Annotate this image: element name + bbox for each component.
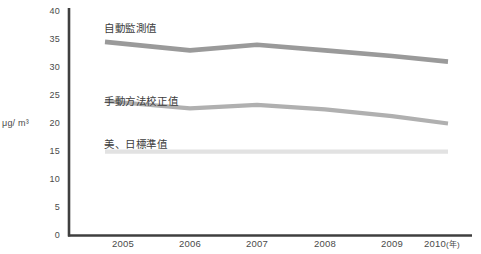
line-chart: μg/ m³ 40 35 30 25 20 15 10 5 0 自動監測值 手動…: [0, 0, 481, 254]
x-tick-label-2006: 2006: [160, 238, 220, 249]
series-line-auto: [105, 42, 448, 62]
series-label-manual: 手動方法校正值: [104, 93, 178, 108]
x-tick-label-2010-year: 2010: [424, 238, 446, 249]
series-label-auto: 自動監測值: [104, 20, 157, 35]
x-tick-label-2010: 2010(年): [412, 238, 472, 249]
x-tick-label-2007: 2007: [227, 238, 287, 249]
series-label-standard: 美、日標準值: [104, 136, 168, 151]
x-tick-label-2008: 2008: [295, 238, 355, 249]
x-tick-label-2005: 2005: [93, 238, 153, 249]
plot-area: [0, 0, 481, 254]
x-axis-unit: (年): [446, 240, 460, 249]
